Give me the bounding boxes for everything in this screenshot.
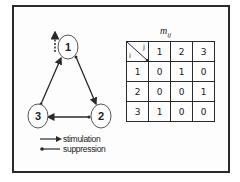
matrix-cell: 0 bbox=[193, 102, 215, 122]
matrix-row: 1 0 1 0 bbox=[127, 62, 215, 82]
matrix-header-row: i j 1 2 3 bbox=[127, 42, 215, 62]
node-3: 3 bbox=[28, 104, 48, 128]
node-1: 1 bbox=[58, 35, 78, 59]
node-2: 2 bbox=[91, 104, 111, 128]
matrix-corner-cell: i j bbox=[127, 42, 149, 62]
matrix-cell: 0 bbox=[171, 82, 193, 102]
legend: stimulation suppression bbox=[40, 134, 106, 154]
edge-1-to-2 bbox=[76, 57, 96, 104]
col-header: 1 bbox=[149, 42, 171, 62]
matrix-row: 2 0 0 1 bbox=[127, 82, 215, 102]
svg-text:2: 2 bbox=[98, 110, 104, 122]
interaction-matrix: i j 1 2 3 1 0 1 0 2 0 0 1 3 1 0 0 bbox=[126, 41, 215, 122]
row-header: 3 bbox=[127, 102, 149, 122]
matrix-cell: 0 bbox=[149, 62, 171, 82]
matrix-cell: 1 bbox=[171, 62, 193, 82]
matrix-cell: 0 bbox=[149, 82, 171, 102]
legend-label: suppression bbox=[63, 144, 106, 154]
row-header: 2 bbox=[127, 82, 149, 102]
legend-label: stimulation bbox=[63, 134, 100, 144]
svg-text:1: 1 bbox=[65, 41, 71, 53]
matrix-row: 3 1 0 0 bbox=[127, 102, 215, 122]
legend-item-stimulation: stimulation bbox=[40, 134, 106, 144]
dot-line-icon bbox=[40, 145, 62, 153]
matrix-cell: 0 bbox=[171, 102, 193, 122]
row-header: 1 bbox=[127, 62, 149, 82]
matrix-cell: 1 bbox=[149, 102, 171, 122]
legend-item-suppression: suppression bbox=[40, 144, 106, 154]
matrix-cell: 0 bbox=[193, 62, 215, 82]
col-header: 3 bbox=[193, 42, 215, 62]
matrix-cell: 1 bbox=[193, 82, 215, 102]
edge-3-to-1 bbox=[41, 58, 61, 104]
matrix-title: mij bbox=[160, 25, 171, 39]
svg-text:3: 3 bbox=[35, 110, 41, 122]
col-header: 2 bbox=[171, 42, 193, 62]
arrow-icon bbox=[40, 135, 62, 143]
